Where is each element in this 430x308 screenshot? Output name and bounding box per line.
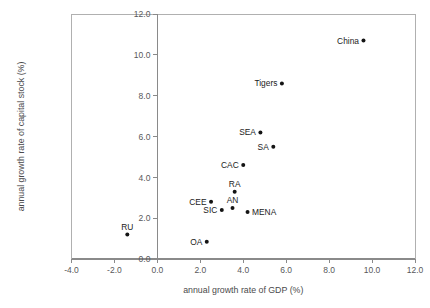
- x-axis-title: annual growth rate of GDP (%): [183, 285, 303, 295]
- data-point: CAC: [221, 160, 245, 170]
- data-point-label: SA: [258, 142, 270, 152]
- data-point-marker: [125, 233, 129, 237]
- data-point-label: AN: [227, 195, 239, 205]
- x-tick-label: 12.0: [407, 265, 424, 275]
- x-tick-label: 6.0: [280, 265, 292, 275]
- y-axis: 0.02.04.06.08.010.012.0: [134, 9, 158, 264]
- x-tick-label: 8.0: [323, 265, 335, 275]
- data-point-label: China: [337, 36, 359, 46]
- data-point: SA: [258, 142, 276, 152]
- data-point: AN: [227, 195, 239, 210]
- data-point-label: CAC: [221, 160, 239, 170]
- data-point-marker: [241, 163, 245, 167]
- data-point-marker: [209, 200, 213, 204]
- data-point-label: SIC: [203, 205, 217, 215]
- x-tick-label: -2.0: [107, 265, 122, 275]
- data-point-marker: [246, 210, 250, 214]
- data-point-label: Tigers: [254, 78, 277, 88]
- y-tick-label: 10.0: [134, 50, 151, 60]
- data-point-marker: [231, 206, 235, 210]
- data-point: OA: [190, 237, 209, 247]
- x-axis: -4.0-2.00.02.04.06.08.010.012.0: [64, 259, 423, 275]
- y-tick-label: 4.0: [139, 173, 151, 183]
- x-tick-label: 10.0: [364, 265, 381, 275]
- data-point-marker: [280, 81, 284, 85]
- x-tick-label: 2.0: [194, 265, 206, 275]
- y-axis-title: annual growth rate of capital stock (%): [16, 62, 26, 212]
- data-point: SIC: [203, 205, 223, 215]
- x-tick-label: -4.0: [64, 265, 79, 275]
- y-tick-label: 6.0: [139, 132, 151, 142]
- data-point-label: OA: [190, 237, 203, 247]
- data-point-label: RU: [121, 222, 133, 232]
- data-point: MENA: [246, 207, 277, 217]
- data-point-marker: [233, 190, 237, 194]
- data-point: China: [337, 36, 365, 46]
- data-point: SEA: [239, 127, 262, 137]
- x-tick-label: 0.0: [151, 265, 163, 275]
- scatter-chart: -4.0-2.00.02.04.06.08.010.012.0 0.02.04.…: [0, 0, 430, 308]
- data-point: RU: [121, 222, 133, 237]
- data-point-marker: [205, 240, 209, 244]
- y-tick-label: 0.0: [139, 254, 151, 264]
- data-point-marker: [361, 39, 365, 43]
- x-tick-label: 4.0: [237, 265, 249, 275]
- y-tick-label: 2.0: [139, 213, 151, 223]
- data-point: RA: [229, 179, 241, 194]
- data-point-marker: [271, 145, 275, 149]
- data-point-label: RA: [229, 179, 241, 189]
- data-point-label: SEA: [239, 127, 256, 137]
- data-point-label: MENA: [252, 207, 277, 217]
- y-tick-label: 12.0: [134, 9, 151, 19]
- plot-canvas: -4.0-2.00.02.04.06.08.010.012.0 0.02.04.…: [0, 0, 430, 308]
- data-point-marker: [258, 130, 262, 134]
- y-tick-label: 8.0: [139, 91, 151, 101]
- data-point: Tigers: [254, 78, 283, 88]
- data-point-marker: [220, 208, 224, 212]
